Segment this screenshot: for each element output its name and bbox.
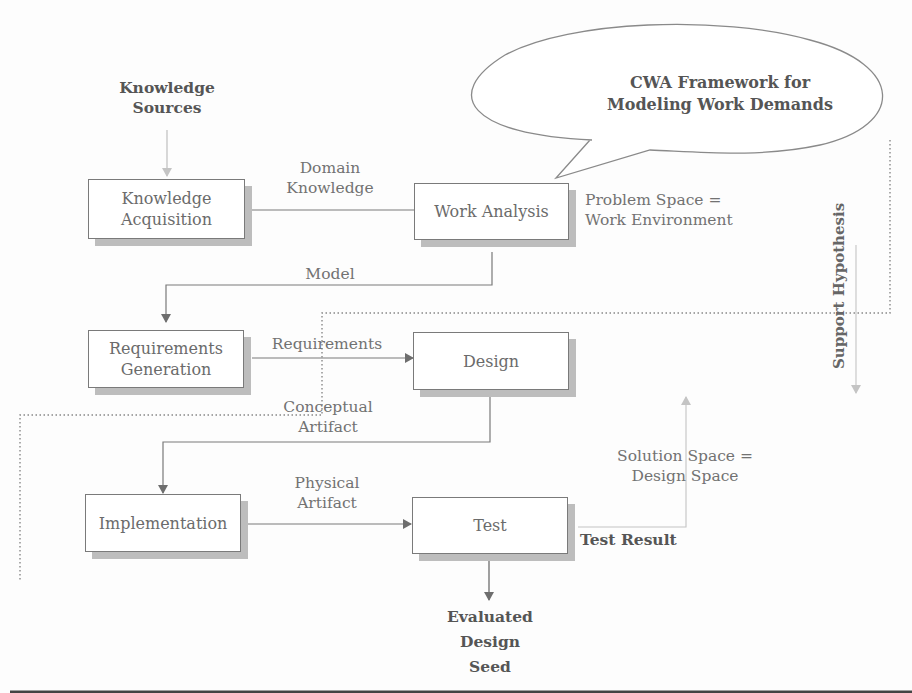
design-box: Design xyxy=(413,332,569,390)
model-label: Model xyxy=(290,264,370,284)
test-box: Test xyxy=(412,497,568,554)
domain-knowledge-label: Domain Knowledge xyxy=(270,158,390,198)
requirements-label: Requirements xyxy=(262,334,392,354)
problem-space-label: Problem Space = Work Environment xyxy=(585,190,760,230)
requirements-generation-box: RequirementsGeneration xyxy=(88,330,244,388)
cwa-design-process-diagram: CWA Framework for Modeling Work Demands … xyxy=(0,0,912,693)
bubble-line-1: CWA Framework for xyxy=(590,72,850,94)
bubble-line-2: Modeling Work Demands xyxy=(590,94,850,116)
test-result-label: Test Result xyxy=(580,530,690,550)
work-analysis-box: Work Analysis xyxy=(414,183,569,240)
conceptual-artifact-label: Conceptual Artifact xyxy=(268,397,388,437)
cwa-framework-bubble: CWA Framework for Modeling Work Demands xyxy=(590,72,850,116)
support-hypothesis-label: Support Hypothesis xyxy=(830,209,850,369)
evaluated-design-seed-label: Evaluated Design Seed xyxy=(430,604,550,679)
knowledge-sources-label: Knowledge Sources xyxy=(112,78,222,118)
physical-artifact-label: Physical Artifact xyxy=(272,473,382,513)
knowledge-acquisition-box: KnowledgeAcquisition xyxy=(88,179,245,239)
implementation-box: Implementation xyxy=(85,494,241,552)
solution-space-label: Solution Space = Design Space xyxy=(605,446,765,486)
